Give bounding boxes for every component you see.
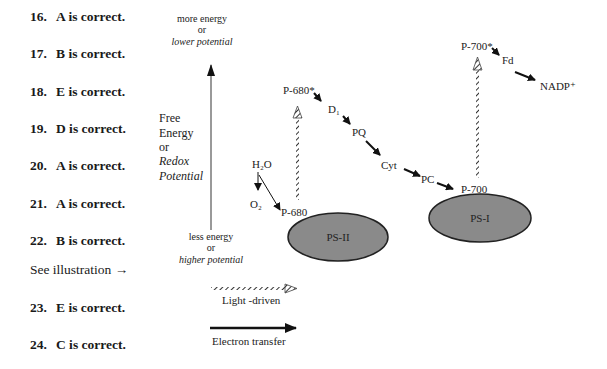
node-h2o: H₂O bbox=[252, 158, 272, 170]
ps2-label: PS-II bbox=[326, 231, 350, 243]
fd-to-nadp-arrow bbox=[515, 72, 535, 80]
pc-to-p700-arrow bbox=[437, 183, 453, 189]
axis-bottom-line3: higher potential bbox=[179, 254, 243, 265]
legend-light-driven-line bbox=[211, 287, 287, 290]
h2o-to-p680-arrow bbox=[259, 175, 280, 210]
node-p680: P-680 bbox=[281, 206, 308, 218]
axis-label-line1: Free bbox=[159, 111, 180, 125]
p700star-to-fd-arrow bbox=[492, 48, 499, 55]
ps2-light-arrow bbox=[296, 115, 299, 200]
axis-bottom-line1: less energy bbox=[189, 231, 234, 242]
legend-electron-transfer-label: Electron transfer bbox=[212, 335, 286, 347]
ps1-light-arrow bbox=[476, 68, 479, 178]
legend-light-driven-label: Light -driven bbox=[222, 294, 281, 306]
axis-label-line5: Potential bbox=[158, 169, 204, 183]
pq-to-cyt-arrow bbox=[366, 141, 380, 155]
axis-label-line2: Energy bbox=[159, 126, 193, 140]
axis-label-line4: Redox bbox=[158, 154, 190, 168]
photosystem-ii: PS-II bbox=[288, 213, 388, 261]
energy-axis: more energy or lower potential less ener… bbox=[158, 13, 243, 265]
ps1-light-arrowhead-icon bbox=[473, 57, 482, 70]
node-cyt: Cyt bbox=[381, 159, 397, 171]
node-o2: O₂ bbox=[250, 198, 262, 210]
d1-to-pq-arrow bbox=[343, 116, 350, 124]
ps1-label: PS-I bbox=[470, 212, 490, 224]
axis-label-line3: or bbox=[159, 140, 169, 154]
z-scheme-diagram: more energy or lower potential less ener… bbox=[0, 0, 607, 369]
axis-bottom-line2: or bbox=[207, 242, 216, 253]
axis-top-line3: lower potential bbox=[172, 36, 233, 47]
ps2-light-arrowhead-icon bbox=[293, 106, 302, 118]
axis-top-line2: or bbox=[198, 24, 207, 35]
cyt-to-pc-arrow bbox=[404, 169, 420, 176]
node-pq: PQ bbox=[352, 126, 366, 138]
legend-light-driven-arrowhead-icon bbox=[285, 284, 297, 293]
axis-top-line1: more energy bbox=[177, 13, 227, 24]
node-fd: Fd bbox=[502, 54, 514, 66]
node-p680-star: P-680* bbox=[283, 84, 315, 96]
node-p700: P-700 bbox=[461, 183, 488, 195]
legend: Light -driven Electron transfer bbox=[210, 284, 297, 347]
node-p700-star: P-700* bbox=[461, 40, 493, 52]
node-nadp: NADP⁺ bbox=[540, 80, 576, 92]
p680star-to-d1-arrow bbox=[314, 93, 321, 101]
node-d1: D₁ bbox=[328, 103, 340, 115]
photosystem-i: PS-I bbox=[429, 194, 531, 242]
axis-arrowhead-icon bbox=[207, 64, 215, 76]
node-pc: PC bbox=[421, 173, 434, 185]
